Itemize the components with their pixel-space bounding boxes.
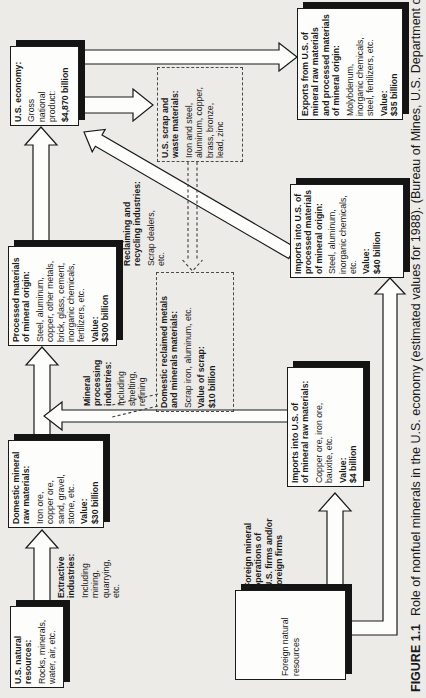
value-label: Value:: [338, 371, 348, 483]
label-title: Reclaiming and recycling industries:: [122, 166, 143, 266]
arrow-extractive: [26, 530, 58, 606]
label-body: Including smelting, refining: [116, 344, 147, 406]
box-title: Domestic reclaimed metals and minerals m…: [159, 276, 180, 408]
box-body: Copper ore, iron ore, bauxite, etc.: [314, 371, 335, 483]
box-domestic-reclaimed-metals: Domestic reclaimed metals and minerals m…: [156, 272, 234, 412]
label-reclaiming-recycling-industries: Reclaiming and recycling industries: Scr…: [122, 166, 167, 266]
figure-caption: FIGURE 1.1Role of nonfuel minerals in th…: [409, 0, 426, 692]
figure-caption-number: FIGURE 1.1: [409, 624, 423, 692]
box-body: Rocks, minerals, water, air, etc.: [37, 610, 58, 684]
box-imports-processed-materials: Imports into U.S. of processed materials…: [290, 184, 404, 278]
value-amount: $4,870 billion: [60, 50, 70, 122]
box-domestic-raw-materials: Domestic mineral raw materials: Iron ore…: [8, 440, 104, 528]
value-amount: $300 billion: [100, 250, 110, 342]
value-label: Value:: [361, 188, 371, 274]
value-label: Value:: [79, 444, 89, 524]
box-title: Imports into U.S. of of mineral raw mate…: [290, 371, 311, 483]
label-title: Mineral processing industries:: [82, 344, 113, 406]
box-title: U.S. economy:: [13, 50, 23, 122]
arrow-mineral-processing: [26, 347, 58, 442]
box-imports-raw-materials: Imports into U.S. of of mineral raw mate…: [287, 367, 364, 487]
box-body: Gross national product:: [26, 50, 57, 122]
label-body: Including mining, quarrying, etc.: [80, 528, 122, 598]
label-body: Scrap dealers, etc.: [146, 166, 167, 266]
label-extractive-industries: Extractive industries: Including mining,…: [56, 528, 121, 598]
arrow-foreign-operations: [319, 493, 351, 592]
dashed-arrowhead-reclaimed: [183, 260, 203, 271]
box-foreign-natural-resources: Foreign natural resources: [235, 590, 346, 680]
value-amount: $30 billion: [90, 444, 100, 524]
box-us-natural-resources: U.S. natural resources: Rocks, minerals,…: [10, 606, 64, 688]
label-mineral-processing-industries: Mineral processing industries: Including…: [82, 344, 147, 406]
box-body: Iron ore, copper ore, sand, gravel, ston…: [35, 444, 77, 524]
box-title: Exports from U.S. of mineral raw materia…: [300, 12, 342, 116]
box-exports: Exports from U.S. of mineral raw materia…: [297, 8, 403, 120]
arrow-processed-to-economy: [25, 127, 57, 248]
value-amount: $35 billion: [389, 12, 399, 116]
box-body: Steel, aluminum, inorganic chemicals, et…: [327, 188, 358, 274]
box-title: Foreign natural resources: [280, 618, 301, 676]
box-title: Imports into U.S. of processed materials…: [293, 188, 324, 274]
box-title: U.S. natural resources:: [13, 610, 34, 684]
value-label: Value:: [90, 250, 100, 342]
box-title: Processed materials of mineral origin:: [11, 250, 32, 342]
box-body: Steel, aluminum, copper, other metals, b…: [35, 250, 87, 342]
box-body: Molybdenum, inorganic chemicals, steel, …: [345, 12, 376, 116]
value-label: Value of scrap:: [196, 276, 206, 408]
value-amount: $4 billion: [348, 371, 358, 483]
value-label: Value:: [379, 12, 389, 116]
box-body: Scrap iron, aluminum, etc.: [183, 276, 193, 408]
arrow-economy-to-scrap: [84, 89, 153, 121]
box-body: Iron and steel, aluminum, copper, brass,…: [184, 71, 226, 158]
label-title: Foreign mineral operations of U.S. firms…: [243, 498, 285, 588]
figure-rotated-page: U.S. natural resources: Rocks, minerals,…: [0, 0, 426, 698]
label-foreign-mineral-operations: Foreign mineral operations of U.S. firms…: [243, 498, 285, 588]
value-amount: $10 billion: [207, 276, 217, 408]
label-title: Extractive industries:: [56, 528, 77, 598]
box-processed-materials: Processed materials of mineral origin: S…: [8, 246, 117, 346]
box-title: U.S. scrap and waste materials:: [160, 71, 181, 158]
figure-caption-text: Role of nonfuel minerals in the U.S. eco…: [409, 0, 423, 616]
box-scrap-waste-materials: U.S. scrap and waste materials: Iron and…: [157, 67, 243, 162]
box-title: Domestic mineral raw materials:: [11, 444, 32, 524]
value-amount: $40 billion: [372, 188, 382, 274]
box-us-economy: U.S. economy: Gross national product: $4…: [10, 46, 79, 126]
